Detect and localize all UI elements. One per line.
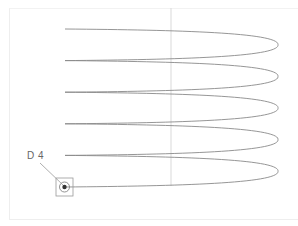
detail-marker[interactable] [40, 163, 73, 196]
coil-turn [65, 61, 278, 93]
helix-coil [65, 29, 278, 187]
coil-turn [65, 92, 278, 124]
detail-label: D 4 [27, 150, 44, 161]
marker-dot-icon [62, 185, 66, 189]
leader-line [40, 163, 63, 185]
coil-turn [65, 29, 278, 61]
coil-turn [65, 124, 278, 156]
coil-turn [65, 155, 278, 187]
drawing-canvas [0, 0, 298, 226]
